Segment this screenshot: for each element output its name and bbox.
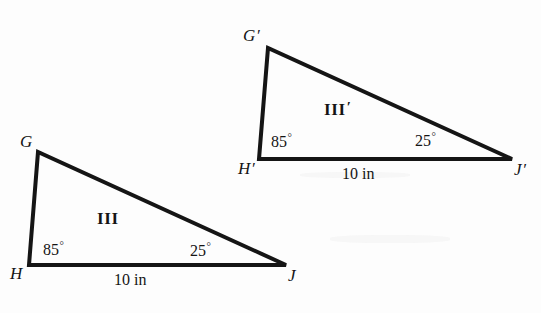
vertex-letter-h-prime: H <box>238 159 251 178</box>
vertex-label-g-prime: G′ <box>243 27 260 44</box>
vertex-label-h: H <box>10 265 23 282</box>
vertex-label-j: J <box>288 267 296 284</box>
prime-mark: ′ <box>346 99 352 115</box>
side-label-hj-prime: 10 in <box>342 166 374 182</box>
vertex-letter-g-prime: G <box>243 26 256 45</box>
triangle-upper-outline <box>259 48 512 159</box>
degree-icon: ° <box>59 239 64 251</box>
prime-mark: ′ <box>251 159 256 178</box>
angle-label-j: 25° <box>190 241 211 259</box>
region-label-upper: III′ <box>324 100 351 118</box>
degree-icon: ° <box>287 131 292 143</box>
vertex-label-g: G <box>20 133 33 150</box>
angle-value-j-prime: 25 <box>415 132 431 149</box>
vertex-label-j-prime: J′ <box>514 161 526 178</box>
angle-label-h: 85° <box>43 240 64 258</box>
degree-icon: ° <box>431 130 436 142</box>
vertex-letter-j-prime: J <box>514 160 522 179</box>
region-label-lower: III <box>97 210 119 227</box>
prime-mark: ′ <box>256 26 261 45</box>
angle-value-h: 85 <box>43 241 59 258</box>
angle-value-h-prime: 85 <box>271 133 287 150</box>
angle-label-h-prime: 85° <box>271 132 292 150</box>
degree-icon: ° <box>206 240 211 252</box>
angle-label-j-prime: 25° <box>415 131 436 149</box>
vertex-label-h-prime: H′ <box>238 160 255 177</box>
prime-mark: ′ <box>522 160 527 179</box>
triangles-canvas <box>0 0 541 313</box>
angle-value-j: 25 <box>190 242 206 259</box>
geometry-figure: G H J III 85° 25° 10 in G′ H′ J′ III′ 85… <box>0 0 541 313</box>
side-label-hj: 10 in <box>114 272 146 288</box>
region-text-upper: III <box>324 100 346 119</box>
